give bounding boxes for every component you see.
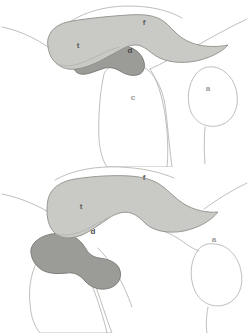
upper-label-f: f (143, 18, 146, 27)
lower-structure-a (191, 244, 242, 306)
upper-outline-tail-right (196, 19, 247, 46)
upper-structure-a-tail (204, 127, 205, 164)
upper-label-c: c (131, 93, 136, 102)
lower-label-a: a (212, 235, 217, 244)
lower-region-t-f (47, 176, 218, 238)
lower-label-d: d (91, 227, 96, 236)
upper-label-t: t (77, 41, 80, 50)
upper-label-a: a (206, 84, 211, 93)
lower-structure-a-tail (206, 307, 208, 333)
lower-label-c: c (71, 259, 76, 268)
upper-structure-a (188, 67, 237, 127)
upper-panel-canvas: t f d c a (0, 0, 249, 167)
lower-label-t: t (80, 202, 83, 211)
lower-outline-tail-right (204, 183, 247, 209)
upper-label-d: d (128, 46, 133, 55)
upper-panel: t f d c a (0, 0, 249, 167)
lower-panel-canvas: t f d c a (0, 166, 249, 333)
lower-panel: t f d c a (0, 166, 249, 333)
figure-root: t f d c a (0, 0, 249, 333)
upper-structure-c (99, 62, 172, 167)
lower-label-f: f (143, 173, 146, 182)
